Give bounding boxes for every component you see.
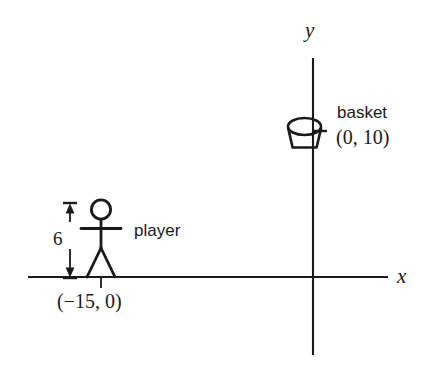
basket-icon: [288, 118, 321, 148]
x-axis-label: x: [397, 266, 406, 287]
figure-canvas: y x basket (0, 10) player (−15, 0) 6: [0, 0, 427, 366]
basket-label: basket: [337, 104, 387, 121]
stick-figure-icon: [81, 200, 121, 277]
y-axis-label: y: [305, 20, 314, 41]
player-height-value-label: 6: [53, 229, 63, 248]
player-coordinate-label: (−15, 0): [57, 291, 122, 311]
player-label: player: [134, 222, 180, 239]
basket-coordinate-label: (0, 10): [336, 127, 389, 147]
tick-marks-group: [101, 131, 327, 288]
player-height-dimension-icon: [63, 203, 77, 278]
